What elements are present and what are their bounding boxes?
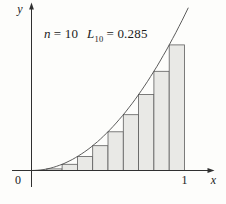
sum-value: = 0.285 [106,26,147,41]
riemann-sum-figure: y x 0 1 n= 10L10= 0.285 [0,0,226,204]
x-axis-label: x [210,173,217,187]
x-max-tick-label: 1 [182,173,188,187]
riemann-rect [62,164,77,170]
riemann-rect [139,95,154,171]
riemann-rect [169,45,184,171]
riemann-rect [123,115,138,171]
riemann-rect [77,157,92,171]
sum-subscript: 10 [95,34,104,44]
riemann-rect [93,146,108,171]
riemann-rect [108,132,123,171]
origin-tick-label: 0 [15,173,21,187]
annotation: n= 10L10= 0.285 [44,26,148,44]
n-value: = 10 [54,26,78,41]
y-axis-arrow-icon [29,3,34,10]
n-symbol: n [44,26,51,41]
riemann-rectangles [47,45,185,171]
sum-symbol: L [87,26,94,41]
y-axis-label: y [16,2,23,16]
riemann-rect [154,71,169,170]
